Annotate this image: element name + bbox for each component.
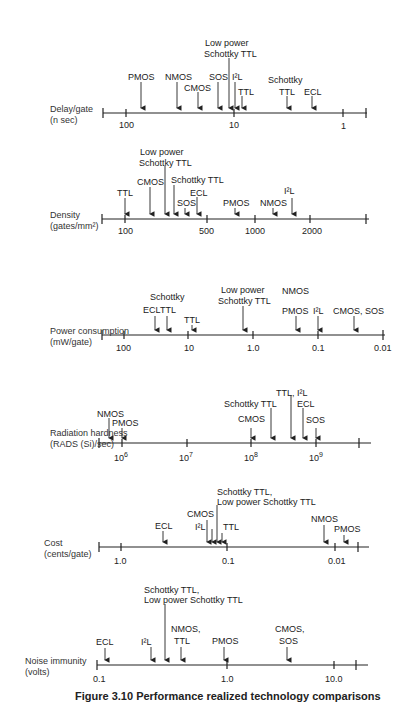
svg-text:0.01: 0.01 <box>374 343 392 353</box>
power-ticks: 100 10 1.0 0.1 0.01 <box>116 343 392 353</box>
svg-text:TTL: TTL <box>117 188 133 198</box>
cost-point-labels: ECL CMOS I²L Schottky TTL, Low power Sch… <box>155 487 361 534</box>
svg-text:107: 107 <box>179 451 193 463</box>
density-axis <box>102 214 369 224</box>
cost-axis-label: Cost (cents/gate) <box>44 538 92 560</box>
svg-text:TTL: TTL <box>160 305 176 315</box>
svg-text:PMOS: PMOS <box>334 524 361 534</box>
svg-text:Low power Schottky TTL: Low power Schottky TTL <box>144 595 243 605</box>
svg-text:PMOS: PMOS <box>282 306 309 316</box>
svg-text:Schottky TTL: Schottky TTL <box>218 296 271 306</box>
radiation-ticks: 106 107 108 109 <box>114 451 323 463</box>
svg-text:500: 500 <box>199 226 214 236</box>
svg-text:109: 109 <box>309 451 323 463</box>
svg-text:NMOS,: NMOS, <box>171 624 201 634</box>
svg-text:CMOS: CMOS <box>184 83 211 93</box>
noise-ticks: 0.1 1.0 10.0 <box>93 674 343 684</box>
svg-text:ECL: ECL <box>297 399 315 409</box>
svg-text:I²L: I²L <box>232 72 243 82</box>
svg-text:NMOS: NMOS <box>260 198 287 208</box>
svg-text:TTL: TTL <box>184 315 200 325</box>
svg-text:PMOS: PMOS <box>128 72 155 82</box>
delay-ticks: 100 10 1 <box>119 120 346 131</box>
cost-axis <box>99 542 369 552</box>
noise-axis-label: Noise immunity (volts) <box>25 656 87 678</box>
svg-text:SOS: SOS <box>306 415 325 425</box>
power-axis <box>102 330 385 340</box>
svg-text:108: 108 <box>244 451 258 463</box>
svg-text:NMOS: NMOS <box>282 286 309 296</box>
figure-caption: Figure 3.10 Performance realized technol… <box>75 690 381 702</box>
svg-text:ECL: ECL <box>96 637 114 647</box>
svg-text:2000: 2000 <box>302 226 322 236</box>
svg-text:Low power Schottky TTL: Low power Schottky TTL <box>217 497 316 507</box>
svg-text:CMOS: CMOS <box>187 509 214 519</box>
svg-text:TTL: TTL <box>174 636 190 646</box>
svg-text:ECL: ECL <box>190 188 208 198</box>
svg-text:1: 1 <box>341 121 346 131</box>
svg-text:CMOS: CMOS <box>238 414 265 424</box>
svg-text:0.1: 0.1 <box>222 556 235 566</box>
svg-text:NMOS: NMOS <box>311 514 338 524</box>
svg-text:I²L: I²L <box>195 522 206 532</box>
svg-text:NMOS: NMOS <box>165 72 192 82</box>
svg-text:Schottky: Schottky <box>150 292 185 302</box>
svg-text:Low power: Low power <box>140 147 184 157</box>
svg-text:Schottky TTL: Schottky TTL <box>224 399 277 409</box>
delay-axis <box>103 108 367 118</box>
svg-text:TTL: TTL <box>238 87 254 97</box>
noise-point-labels: ECL I²L Schottky TTL, Low power Schottky… <box>96 585 305 647</box>
radiation-axis <box>99 438 371 448</box>
svg-text:SOS: SOS <box>177 198 196 208</box>
svg-text:106: 106 <box>114 451 128 463</box>
svg-text:0.1: 0.1 <box>312 343 325 353</box>
svg-text:ECL: ECL <box>155 521 173 531</box>
power-axis-label: Power consumption (mW/gate) <box>50 326 129 348</box>
power-point-labels: Schottky ECL TTL TTL Low power Schottky … <box>143 285 384 325</box>
svg-text:10: 10 <box>229 120 239 130</box>
noise-axis <box>97 660 368 670</box>
svg-text:0.01: 0.01 <box>328 556 346 566</box>
svg-text:I²L: I²L <box>141 637 152 647</box>
svg-text:Schottky TTL,: Schottky TTL, <box>144 585 199 595</box>
svg-text:TTL: TTL <box>279 87 295 97</box>
svg-text:Schottky TTL,: Schottky TTL, <box>217 487 272 497</box>
svg-text:PMOS: PMOS <box>223 198 250 208</box>
svg-text:10: 10 <box>184 343 194 353</box>
cost-ticks: 1.0 0.1 0.01 <box>114 556 346 566</box>
svg-text:CMOS: CMOS <box>137 177 164 187</box>
svg-text:1.0: 1.0 <box>247 343 260 353</box>
svg-text:TTL, I²L: TTL, I²L <box>276 388 308 398</box>
svg-text:Low power: Low power <box>205 38 249 48</box>
svg-text:Schottky TTL: Schottky TTL <box>171 175 224 185</box>
svg-text:Schottky TTL: Schottky TTL <box>204 49 257 59</box>
density-axis-label: Density (gates/mm²) <box>50 210 99 232</box>
density-ticks: 100 500 1000 2000 <box>118 226 322 236</box>
density-point-labels: TTL CMOS Low power Schottky TTL Schottky… <box>117 147 295 208</box>
svg-text:1000: 1000 <box>245 226 265 236</box>
svg-text:I²L: I²L <box>284 186 295 196</box>
svg-text:SOS: SOS <box>209 72 228 82</box>
svg-text:ECL: ECL <box>143 305 161 315</box>
radiation-markers <box>109 395 316 438</box>
svg-text:1.0: 1.0 <box>114 556 127 566</box>
svg-text:ECL: ECL <box>304 87 322 97</box>
delay-point-labels: PMOS NMOS CMOS SOS Low power Schottky TT… <box>128 38 322 97</box>
svg-text:SOS: SOS <box>279 636 298 646</box>
svg-text:0.1: 0.1 <box>93 674 106 684</box>
svg-text:PMOS: PMOS <box>212 636 239 646</box>
svg-text:CMOS,: CMOS, <box>275 624 305 634</box>
svg-text:CMOS, SOS: CMOS, SOS <box>333 306 384 316</box>
svg-text:Schottky TTL: Schottky TTL <box>139 158 192 168</box>
svg-text:Low power: Low power <box>221 285 265 295</box>
svg-text:10.0: 10.0 <box>325 674 343 684</box>
svg-text:PMOS: PMOS <box>112 418 139 428</box>
svg-text:100: 100 <box>118 226 133 236</box>
radiation-axis-label: Radiation hardness (RADS (Si)/sec) <box>50 428 128 450</box>
svg-text:Schottky: Schottky <box>268 75 303 85</box>
chart-canvas: 100 10 1 PMOS NMOS CMOS SOS Low power Sc… <box>0 0 394 702</box>
svg-text:100: 100 <box>119 120 134 130</box>
svg-text:TTL: TTL <box>223 522 239 532</box>
svg-text:1.0: 1.0 <box>221 674 234 684</box>
svg-text:I²L: I²L <box>313 306 324 316</box>
